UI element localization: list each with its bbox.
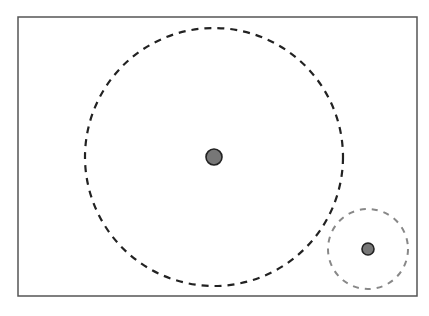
small-center-point	[362, 243, 374, 255]
range-circles	[85, 28, 408, 289]
diagram-canvas	[0, 0, 429, 316]
center-points	[206, 149, 374, 255]
large-center-point	[206, 149, 222, 165]
